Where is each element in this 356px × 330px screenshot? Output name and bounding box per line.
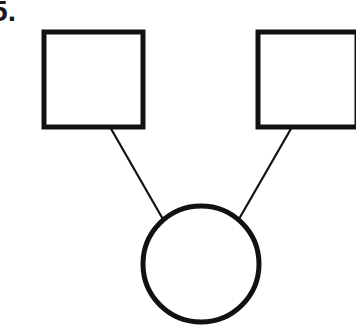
- connector-line-right: [239, 127, 292, 219]
- circle-node-bottom: [143, 206, 259, 322]
- node-group: [44, 32, 356, 322]
- diagram-canvas: 5.: [0, 0, 356, 330]
- square-node-left: [44, 32, 143, 127]
- pedigree-diagram: [0, 0, 356, 330]
- square-node-right: [258, 32, 356, 127]
- connector-line-left: [110, 127, 164, 221]
